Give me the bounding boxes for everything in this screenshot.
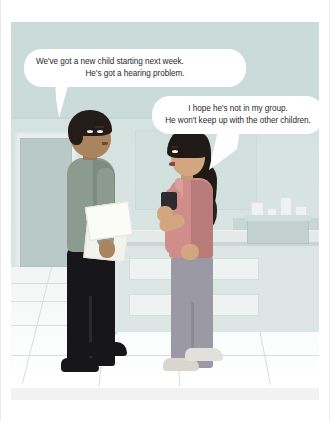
paper-sheet bbox=[85, 201, 133, 241]
man-shoe bbox=[61, 358, 99, 372]
woman-eyebrow bbox=[171, 146, 179, 148]
speech-line: He won't keep up with the other children… bbox=[164, 115, 312, 127]
man-shoe bbox=[85, 342, 127, 356]
character-man bbox=[55, 106, 143, 387]
woman-fringe bbox=[175, 132, 207, 147]
speech-bubble-woman: I hope he's not in my group. He won't ke… bbox=[152, 96, 319, 134]
woman-shoe bbox=[185, 348, 223, 361]
speech-line: I hope he's not in my group. bbox=[164, 103, 312, 115]
man-hand bbox=[99, 240, 115, 258]
supply-basket-rim bbox=[245, 215, 311, 221]
speech-line: We've got a new child starting next week… bbox=[36, 56, 234, 68]
man-eye bbox=[97, 130, 103, 133]
bottom-strip bbox=[11, 388, 319, 400]
supply-basket bbox=[247, 218, 309, 244]
woman-mouth bbox=[169, 162, 175, 166]
speech-bubble-man: We've got a new child starting next week… bbox=[24, 49, 246, 87]
screenshot-root: We've got a new child starting next week… bbox=[0, 0, 330, 421]
man-hair-side bbox=[68, 120, 83, 145]
woman-hand bbox=[181, 244, 199, 260]
man-eyebrow bbox=[95, 126, 104, 128]
man-eye bbox=[87, 130, 93, 133]
illustration-panel: We've got a new child starting next week… bbox=[11, 22, 319, 387]
speech-line: He's got a hearing problem. bbox=[36, 68, 234, 80]
man-mouth bbox=[102, 142, 108, 145]
woman-hand bbox=[157, 206, 173, 222]
woman-eye bbox=[172, 150, 178, 153]
character-woman bbox=[151, 120, 241, 387]
